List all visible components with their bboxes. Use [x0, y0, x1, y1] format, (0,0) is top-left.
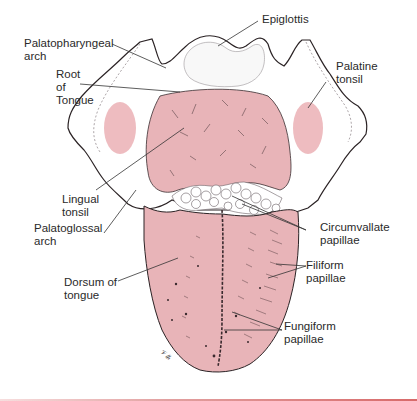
- label-palatine-tonsil: Palatine tonsil: [336, 60, 378, 86]
- label-filiform-papillae: Filiform papillae: [306, 259, 346, 285]
- root-of-tongue-shape: [146, 89, 291, 192]
- left-palatine-tonsil: [104, 102, 136, 154]
- epiglottis-shape: [184, 42, 265, 86]
- label-root-of-tongue: Root of Tongue: [56, 68, 94, 107]
- label-fungiform-papillae: Fungiform papillae: [284, 320, 336, 346]
- tongue-diagram: Epiglottis Palatopharyngeal arch Root of…: [0, 0, 417, 401]
- right-palatine-tonsil: [293, 102, 323, 154]
- label-dorsum-of-tongue: Dorsum of tongue: [64, 276, 117, 302]
- label-palatoglossal-arch: Palatoglossal arch: [34, 222, 102, 248]
- label-palatopharyngeal-arch: Palatopharyngeal arch: [24, 37, 114, 63]
- label-circumvallate-papillae: Circumvallate papillae: [320, 221, 390, 247]
- label-epiglottis: Epiglottis: [262, 13, 309, 26]
- label-lingual-tonsil: Lingual tonsil: [62, 193, 99, 219]
